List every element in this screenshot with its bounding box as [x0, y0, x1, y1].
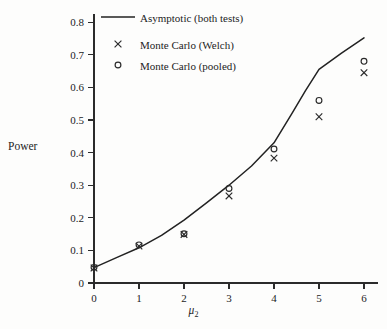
y-tick-label: 0.8: [28, 17, 84, 28]
x-tick-label: 2: [164, 293, 204, 304]
x-tick-label: 4: [254, 293, 294, 304]
y-tick-label: 0.7: [28, 50, 84, 61]
y-tick-label: 0.5: [28, 115, 84, 126]
monte-carlo-pooled-points: [91, 58, 367, 270]
x-axis-title: μ2: [0, 305, 387, 319]
legend-markers: [101, 17, 135, 68]
y-axis-ticks: [88, 22, 94, 283]
legend-entry-monte-carlo-pooled: Monte Carlo (pooled): [140, 61, 236, 72]
pooled-point-marker: [316, 98, 322, 104]
y-tick-label: 0.3: [28, 180, 84, 191]
welch-point-marker: [316, 113, 323, 120]
y-tick-label: 0.6: [28, 82, 84, 93]
y-axis-title: Power: [8, 141, 37, 153]
welch-point-marker: [361, 69, 368, 76]
legend-circle-marker: [115, 62, 121, 68]
legend-cross-marker: [115, 41, 122, 48]
power-curve-chart: 00.10.20.30.40.50.60.70.8 0123456 Power …: [0, 0, 387, 329]
x-axis-ticks: [94, 283, 364, 289]
x-tick-label: 3: [209, 293, 249, 304]
x-tick-label: 1: [119, 293, 159, 304]
pooled-point-marker: [226, 186, 232, 192]
y-tick-label: 0.1: [28, 245, 84, 256]
welch-point-marker: [226, 193, 233, 200]
pooled-point-marker: [361, 58, 367, 64]
legend-entry-monte-carlo-welch: Monte Carlo (Welch): [140, 40, 234, 51]
monte-carlo-welch-points: [91, 69, 368, 271]
y-tick-label: 0: [28, 278, 84, 289]
y-tick-label: 0.2: [28, 213, 84, 224]
x-tick-label: 5: [299, 293, 339, 304]
welch-point-marker: [271, 155, 278, 162]
asymptotic-line-path: [94, 38, 364, 268]
pooled-point-marker: [271, 146, 277, 152]
x-tick-label: 6: [344, 293, 384, 304]
x-axis-title-text: μ2: [189, 304, 199, 316]
x-tick-label: 0: [74, 293, 114, 304]
asymptotic-curve: [94, 38, 364, 268]
legend-entry-asymptotic: Asymptotic (both tests): [140, 13, 243, 24]
